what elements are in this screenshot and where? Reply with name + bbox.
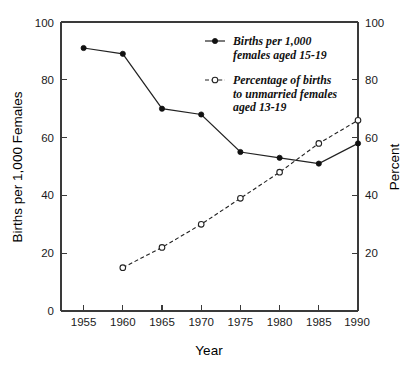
right-ticklabel-100: 100 (365, 17, 384, 29)
legend-births-label-line2: females aged 15-19 (233, 48, 327, 62)
legend-percentage-marker-icon (212, 77, 218, 83)
right-axis-ticks (352, 22, 358, 253)
series-percentage (120, 118, 361, 271)
legend-births-label-line1: Births per 1,000 (232, 34, 311, 48)
chart-figure: 0 20 40 60 80 100 20 40 60 80 100 (0, 0, 415, 375)
x-ticklabel-1985: 1985 (306, 316, 332, 328)
series-percentage-line (123, 120, 358, 267)
right-ticklabel-40: 40 (365, 189, 378, 201)
legend-entry-percentage: Percentage of births to unmarried female… (205, 73, 338, 114)
chart-legend: Births per 1,000 females aged 15-19 Perc… (205, 34, 338, 114)
left-axis-ticklabels: 0 20 40 60 80 100 (35, 17, 54, 318)
series-percentage-point-1985 (316, 141, 322, 147)
series-births-point-1990 (355, 141, 360, 146)
series-percentage-point-1970 (198, 222, 204, 228)
left-ticklabel-100: 100 (35, 17, 54, 29)
x-ticklabel-1990: 1990 (344, 316, 370, 328)
plot-frame (61, 22, 358, 311)
left-ticklabel-60: 60 (41, 132, 54, 144)
series-births-point-1985 (316, 161, 321, 166)
legend-percentage-label-line2: to unmarried females (233, 87, 338, 101)
x-ticklabel-1955: 1955 (71, 316, 97, 328)
legend-percentage-label-line1: Percentage of births (233, 73, 332, 87)
series-percentage-point-1965 (159, 245, 165, 251)
series-births-point-1960 (120, 51, 125, 56)
legend-percentage-label-line3: aged 13-19 (233, 100, 287, 114)
x-ticklabel-1975: 1975 (228, 316, 254, 328)
x-axis-title: Year (195, 343, 223, 358)
right-ticklabel-80: 80 (365, 74, 378, 86)
y-axis-title: Births per 1,000 Females (10, 91, 25, 242)
right-axis-ticklabels: 20 40 60 80 100 (365, 17, 384, 260)
series-births (81, 45, 361, 166)
series-percentage-point-1960 (120, 265, 126, 271)
series-births-point-1975 (238, 149, 243, 154)
series-births-point-1970 (199, 112, 204, 117)
chart-svg: 0 20 40 60 80 100 20 40 60 80 100 (0, 0, 415, 375)
series-percentage-point-1990 (355, 118, 361, 124)
y2-axis-title: Percent (387, 143, 402, 190)
x-ticklabel-1960: 1960 (110, 316, 136, 328)
left-ticklabel-0: 0 (48, 305, 54, 317)
legend-entry-births: Births per 1,000 females aged 15-19 (205, 34, 327, 62)
x-ticklabel-1970: 1970 (188, 316, 214, 328)
right-ticklabel-20: 20 (365, 247, 378, 259)
left-axis-ticks (61, 22, 67, 311)
series-births-line (84, 48, 358, 164)
left-ticklabel-40: 40 (41, 189, 54, 201)
series-births-point-1955 (81, 45, 86, 50)
series-births-point-1965 (159, 106, 164, 111)
series-births-point-1980 (277, 155, 282, 160)
left-ticklabel-80: 80 (41, 74, 54, 86)
x-ticklabel-1965: 1965 (149, 316, 175, 328)
left-ticklabel-20: 20 (41, 247, 54, 259)
right-ticklabel-60: 60 (365, 132, 378, 144)
x-ticklabel-1980: 1980 (267, 316, 293, 328)
x-axis-ticklabels: 1955 1960 1965 1970 1975 1980 1985 1990 (71, 316, 370, 328)
series-percentage-point-1980 (277, 169, 283, 175)
legend-births-marker-icon (212, 38, 217, 43)
x-axis-ticks (84, 305, 358, 311)
series-percentage-point-1975 (238, 196, 244, 202)
